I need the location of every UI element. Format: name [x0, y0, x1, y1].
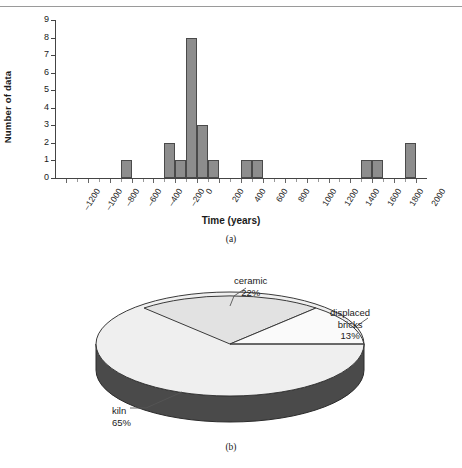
- x-tick-label: 600: [275, 187, 290, 204]
- x-tick: [197, 179, 198, 183]
- x-tick-label: 0: [204, 187, 214, 196]
- pie-label-ceramic-name: ceramic: [234, 275, 267, 287]
- y-tick: [51, 20, 55, 21]
- x-tick-minor: [208, 179, 209, 182]
- x-tick: [372, 179, 373, 183]
- y-tick-label: 1: [35, 155, 49, 164]
- y-tick: [51, 125, 55, 126]
- x-tick-minor: [274, 179, 275, 182]
- y-tick-label: 4: [35, 103, 49, 112]
- x-tick-label: 200: [231, 187, 246, 204]
- x-tick: [329, 179, 330, 183]
- pie-label-ceramic-percent: 22%: [234, 287, 267, 299]
- x-tick-label: 1800: [408, 187, 426, 208]
- x-tick-minor: [121, 179, 122, 182]
- x-tick-label: 800: [296, 187, 311, 204]
- y-tick-label: 7: [35, 50, 49, 59]
- y-tick: [51, 90, 55, 91]
- x-tick: [263, 179, 264, 183]
- histogram-figure: Number of data 0123456789–1200–1000–800–…: [0, 12, 462, 252]
- pie-label-displaced-bricks: displaced bricks 13%: [330, 307, 370, 342]
- histogram-bar: [405, 143, 416, 178]
- x-tick-minor: [339, 179, 340, 182]
- y-tick-label: 0: [35, 173, 49, 182]
- x-tick-minor: [383, 179, 384, 182]
- y-axis-title: Number of data: [2, 0, 13, 52]
- pie-label-kiln: kiln 65%: [112, 405, 131, 428]
- pie-label-kiln-name: kiln: [112, 405, 131, 417]
- x-tick-label: 400: [253, 187, 268, 204]
- y-tick-label: 5: [35, 85, 49, 94]
- x-tick-minor: [143, 179, 144, 182]
- y-tick: [51, 55, 55, 56]
- y-tick: [51, 38, 55, 39]
- y-tick: [51, 178, 55, 179]
- x-tick: [175, 179, 176, 183]
- x-tick: [66, 179, 67, 183]
- x-tick-minor: [230, 179, 231, 182]
- y-tick-label: 9: [35, 15, 49, 24]
- y-tick: [51, 73, 55, 74]
- histogram-bar: [241, 160, 252, 178]
- x-tick-minor: [164, 179, 165, 182]
- histogram-bar: [372, 160, 383, 178]
- x-tick: [241, 179, 242, 183]
- x-tick-label: 1600: [386, 187, 404, 208]
- x-tick-label: 2000: [430, 187, 448, 208]
- top-divider: [0, 6, 462, 7]
- y-tick-label: 8: [35, 33, 49, 42]
- x-tick: [394, 179, 395, 183]
- x-tick: [350, 179, 351, 183]
- x-tick-label: –400: [167, 187, 185, 208]
- pie-figure: ceramic 22% displaced bricks 13% kiln 65…: [0, 262, 462, 468]
- x-axis-title: Time (years): [0, 215, 462, 226]
- x-tick: [285, 179, 286, 183]
- histogram-bar: [252, 160, 263, 178]
- y-tick: [51, 143, 55, 144]
- x-tick: [307, 179, 308, 183]
- y-tick: [51, 108, 55, 109]
- figure-a-caption: (a): [0, 234, 462, 244]
- x-tick-minor: [186, 179, 187, 182]
- x-tick-label: 1400: [364, 187, 382, 208]
- x-tick-label: 1000: [321, 187, 339, 208]
- histogram-bar: [186, 38, 197, 178]
- y-tick-label: 2: [35, 138, 49, 147]
- x-tick: [416, 179, 417, 183]
- y-axis-title-text: Number of data: [2, 52, 13, 162]
- x-tick-minor: [318, 179, 319, 182]
- y-tick-label: 6: [35, 68, 49, 77]
- x-tick-minor: [296, 179, 297, 182]
- x-tick-minor: [77, 179, 78, 182]
- pie-label-kiln-percent: 65%: [112, 417, 131, 429]
- x-tick: [219, 179, 220, 183]
- histogram-plot-area: 0123456789–1200–1000–800–600–400–2000200…: [55, 20, 427, 178]
- x-tick: [88, 179, 89, 183]
- pie-label-displaced-bricks-percent: 13%: [330, 330, 370, 342]
- x-tick-minor: [99, 179, 100, 182]
- x-tick: [153, 179, 154, 183]
- pie-label-displaced-bricks-line2: bricks: [330, 319, 370, 331]
- histogram-bar: [164, 143, 175, 178]
- x-tick-label: –1000: [104, 187, 124, 212]
- histogram-bar: [361, 160, 372, 178]
- x-tick-minor: [252, 179, 253, 182]
- pie-label-ceramic: ceramic 22%: [234, 275, 267, 298]
- pie-label-displaced-bricks-line1: displaced: [330, 307, 370, 319]
- y-tick: [51, 160, 55, 161]
- x-tick: [132, 179, 133, 183]
- histogram-bar: [197, 125, 208, 178]
- histogram-bar: [208, 160, 219, 178]
- x-tick-label: –800: [124, 187, 142, 208]
- histogram-bar: [121, 160, 132, 178]
- x-tick-minor: [361, 179, 362, 182]
- x-tick-minor: [405, 179, 406, 182]
- histogram-bar: [175, 160, 186, 178]
- figure-b-caption: (b): [0, 442, 462, 452]
- x-tick-label: –600: [145, 187, 163, 208]
- x-tick-label: –1200: [82, 187, 102, 212]
- y-tick-label: 3: [35, 120, 49, 129]
- figure-page: Number of data 0123456789–1200–1000–800–…: [0, 0, 462, 468]
- x-tick-label: 1200: [342, 187, 360, 208]
- x-tick: [110, 179, 111, 183]
